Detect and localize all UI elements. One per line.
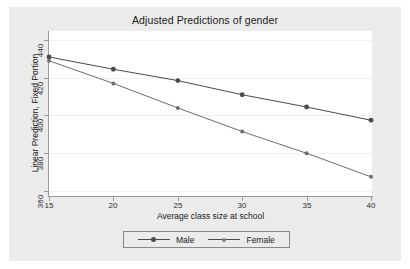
filled-circle-icon: [151, 237, 156, 242]
gridline-360: [49, 191, 372, 192]
legend-entry-male[interactable]: Male: [138, 235, 194, 245]
x-axis-line: [48, 196, 373, 197]
legend-label-female: Female: [246, 235, 274, 245]
x-axis-title: Average class size at school: [49, 211, 372, 221]
gridline-380: [49, 153, 372, 154]
x-tick-label-40: 40: [359, 201, 383, 210]
legend-label-male: Male: [176, 235, 194, 245]
x-tick-label-15: 15: [37, 201, 61, 210]
chart-screenshot: Adjusted Predictions of gender 440 420 4…: [0, 0, 410, 269]
y-tick-mark-440: [44, 40, 49, 41]
y-tick-mark-400: [44, 115, 49, 116]
legend-entry-female[interactable]: Female: [208, 235, 274, 245]
legend-line-male: [138, 236, 170, 243]
y-axis-line: [48, 31, 49, 197]
x-tick-label-30: 30: [230, 201, 254, 210]
chart-legend: Male Female: [123, 231, 290, 248]
x-tick-label-25: 25: [166, 201, 190, 210]
gridline-420: [49, 78, 372, 79]
y-tick-mark-380: [44, 153, 49, 154]
chart-title: Adjusted Predictions of gender: [0, 14, 410, 26]
gridline-440: [49, 40, 372, 41]
x-tick-label-35: 35: [295, 201, 319, 210]
plot-area: [49, 31, 372, 196]
y-tick-mark-420: [44, 78, 49, 79]
legend-line-female: [208, 236, 240, 243]
small-circle-icon: [222, 238, 226, 242]
y-tick-mark-360: [44, 191, 49, 192]
y-axis-title: Linear Prediction, Fixed Portion: [30, 28, 40, 198]
x-tick-label-20: 20: [101, 201, 125, 210]
gridline-400: [49, 115, 372, 116]
